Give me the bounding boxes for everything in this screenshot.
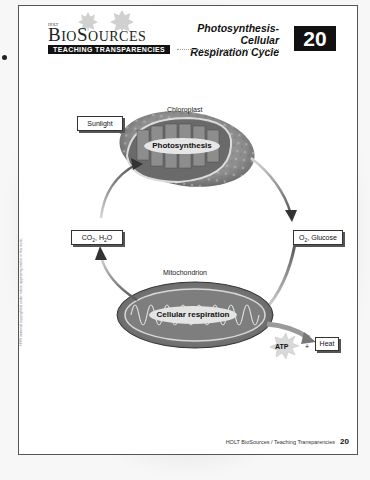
footer-page-number: 20: [340, 437, 349, 446]
binder-hole: [2, 55, 7, 60]
o2-glucose-box: O2, Glucose: [293, 230, 343, 245]
co2-to-chloroplast-arrow: [101, 158, 143, 218]
photosynthesis-label: Photosynthesis: [144, 141, 220, 150]
footer-text: HOLT BioSources / Teaching Transparencie…: [226, 439, 335, 445]
cellular-respiration-label: Cellular respiration: [148, 310, 238, 319]
page-footer: HOLT BioSources / Teaching Transparencie…: [199, 437, 349, 446]
mitochondrion-label: Mitochondrion: [163, 269, 207, 276]
chloroplast-label: Chloroplast: [167, 106, 202, 113]
mitochondrion-to-co2-arrow: [95, 246, 137, 300]
transparency-page: HOLT BIOSOURCES TEACHING TRANSPARENCIES …: [18, 5, 358, 455]
plus-sign: +: [305, 343, 309, 350]
atp-label: ATP: [275, 343, 288, 350]
sunlight-box: Sunlight: [77, 116, 123, 131]
chloroplast-to-o2-arrow: [251, 158, 297, 222]
heat-box: Heat: [315, 337, 339, 351]
o2-to-mitochondrion-arrow: [264, 244, 295, 311]
co2-h2o-box: CO2, H2O: [71, 230, 123, 245]
